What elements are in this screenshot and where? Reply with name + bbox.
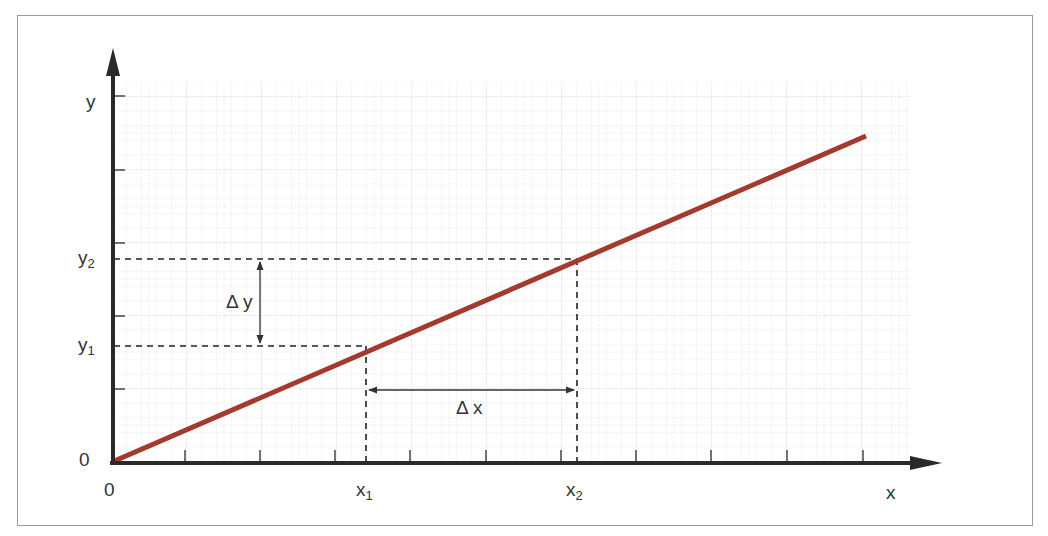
y1-subscript: 1 <box>88 343 95 358</box>
y1-label: y1 <box>78 335 95 357</box>
delta-y-label: Δ y <box>226 292 252 311</box>
y-axis-label: y <box>86 92 96 111</box>
delta-x-label: Δ x <box>456 398 482 417</box>
x2-label: x2 <box>566 480 583 502</box>
y2-subscript: 2 <box>88 256 95 271</box>
grid <box>112 82 910 462</box>
y-origin-label: 0 <box>79 450 90 469</box>
y-axis-arrowhead-icon <box>106 48 120 76</box>
y2-label: y2 <box>78 248 95 270</box>
x1-base: x <box>356 479 366 500</box>
x-axis-label: x <box>886 483 896 502</box>
x1-subscript: 1 <box>366 488 373 503</box>
y1-base: y <box>78 334 88 355</box>
x1-label: x1 <box>356 480 373 502</box>
y2-base: y <box>78 247 88 268</box>
x-origin-label: 0 <box>104 480 115 499</box>
x2-subscript: 2 <box>576 488 583 503</box>
diagram-canvas <box>0 0 1048 536</box>
x-axis-arrowhead-icon <box>910 456 942 470</box>
x2-base: x <box>566 479 576 500</box>
